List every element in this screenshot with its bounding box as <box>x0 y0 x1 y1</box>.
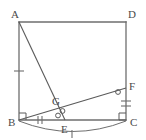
angle-mark-at-E <box>56 113 61 118</box>
figure-canvas: A D B C E F G <box>0 0 146 140</box>
vertex-label-F: F <box>129 80 135 92</box>
vertex-label-C: C <box>130 116 137 128</box>
cevian-BF-line <box>19 88 126 120</box>
arc-B-to-C <box>19 121 126 132</box>
vertex-label-A: A <box>11 8 19 20</box>
vertex-label-E: E <box>61 123 68 135</box>
right-angle-at-C-mark <box>119 113 126 120</box>
vertex-label-B: B <box>8 116 15 128</box>
vertex-label-D: D <box>128 8 136 20</box>
vertex-label-G: G <box>52 95 60 107</box>
cevian-lines <box>19 22 126 120</box>
geometry-figure: A D B C E F G <box>0 0 146 140</box>
rectangle-outline <box>19 22 126 120</box>
